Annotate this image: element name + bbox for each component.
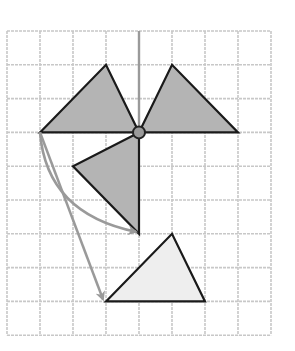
diagram-canvas: Triangle transformations on a square gri… (0, 0, 295, 351)
center-point (133, 126, 145, 138)
points (133, 126, 145, 138)
grid-diagram (0, 0, 295, 351)
